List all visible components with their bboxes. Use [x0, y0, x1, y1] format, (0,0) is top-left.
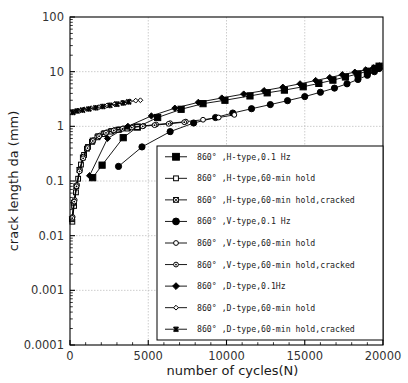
xtick-label: 0: [66, 349, 73, 363]
legend-label: 860° ,H-type,60-min hold,cracked: [197, 195, 355, 205]
marker-filled-circle: [331, 85, 337, 91]
marker-filled-circle: [115, 163, 121, 169]
ytick-label: 10: [49, 65, 64, 79]
marker-filled-circle: [173, 218, 180, 225]
legend-label: 860° ,D-type,0.1Hz: [197, 281, 286, 291]
xtick-label: 10000: [208, 349, 245, 363]
marker-filled-circle: [364, 72, 370, 78]
marker-filled-circle: [355, 76, 361, 82]
marker-filled-circle: [284, 98, 290, 104]
legend-label: 860° ,V-type,60-min hold: [197, 238, 315, 248]
x-axis-title: number of cycles(N): [167, 363, 299, 378]
marker-open-circle: [216, 115, 221, 120]
marker-open-circle: [174, 241, 179, 246]
marker-filled-circle: [139, 144, 145, 150]
xtick-label: 20000: [365, 349, 402, 363]
marker-open-square: [174, 176, 179, 181]
marker-filled-square: [120, 135, 126, 141]
legend-label: 860° ,D-type,60-min hold,cracked: [197, 324, 355, 334]
marker-filled-circle: [344, 81, 350, 87]
marker-filled-square: [99, 162, 105, 168]
chart-legend[interactable]: 860° ,H-type,0.1 Hz860° ,H-type,60-min h…: [157, 146, 383, 340]
ytick-label: 100: [42, 10, 64, 24]
chart-svg: 0.00010.0010.010.11101000500010000150002…: [0, 0, 408, 383]
marker-filled-circle: [302, 93, 308, 99]
ytick-label: 0.1: [46, 174, 64, 188]
marker-filled-square: [173, 153, 180, 160]
legend-label: 860° ,D-type,60-min hold: [197, 303, 315, 313]
marker-filled-circle: [267, 101, 273, 107]
marker-filled-circle: [317, 89, 323, 95]
y-axis-title: crack length da (mm): [6, 111, 21, 252]
marker-filled-circle: [167, 129, 173, 135]
legend-label: 860° ,V-type,0.1 Hz: [197, 216, 291, 226]
marker-open-circle: [232, 112, 237, 117]
chart-figure: 0.00010.0010.010.11101000500010000150002…: [0, 0, 408, 383]
ytick-label: 0.0001: [24, 338, 64, 352]
xtick-label: 5000: [134, 349, 163, 363]
legend-label: 860° ,H-type,0.1 Hz: [197, 152, 291, 162]
marker-filled-square: [155, 114, 161, 120]
ytick-label: 0.01: [38, 229, 64, 243]
marker-filled-circle: [248, 106, 254, 112]
legend-label: 860° ,H-type,60-min hold: [197, 173, 315, 183]
ytick-label: 0.001: [31, 283, 64, 297]
marker-open-circle: [201, 117, 206, 122]
legend-label: 860° ,V-type,60-min hold,cracked: [197, 260, 355, 270]
xtick-label: 15000: [286, 349, 323, 363]
ytick-label: 1: [57, 119, 64, 133]
